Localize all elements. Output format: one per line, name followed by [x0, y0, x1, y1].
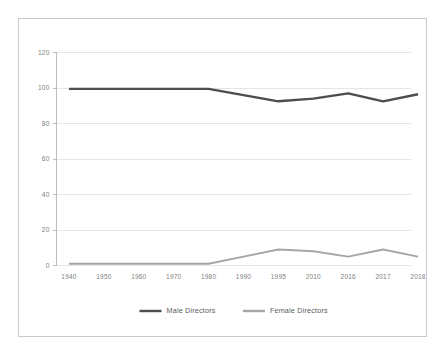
y-tick-label: 100	[38, 84, 50, 91]
x-tick-label: 1980	[201, 273, 216, 280]
y-tick-labels-group: 020406080100120	[38, 49, 50, 269]
x-tick-label: 2016	[341, 273, 356, 280]
series-line-male-directors	[69, 89, 418, 101]
x-tick-label: 1960	[131, 273, 146, 280]
legend-label: Male Directors	[167, 306, 216, 315]
gridlines-group	[57, 53, 411, 266]
x-tick-label: 1950	[96, 273, 111, 280]
x-tick-label: 1940	[61, 273, 76, 280]
x-tick-labels-group: 1940195019601970198019901995201020162017…	[61, 273, 425, 280]
series-line-female-directors	[69, 250, 418, 264]
y-tick-label: 40	[42, 191, 50, 198]
chart-legend: Male DirectorsFemale Directors	[140, 306, 329, 315]
x-tick-label: 1970	[166, 273, 181, 280]
y-axis-group	[53, 53, 57, 266]
y-tick-label: 20	[42, 226, 50, 233]
y-tick-label: 120	[38, 49, 50, 56]
x-tick-label: 1995	[271, 273, 286, 280]
x-tick-label: 1990	[236, 273, 251, 280]
data-series-group	[69, 89, 418, 264]
y-tick-label: 60	[42, 155, 50, 162]
line-chart-plot: 020406080100120 194019501960197019801990…	[0, 0, 445, 356]
chart-figure: 020406080100120 194019501960197019801990…	[0, 0, 445, 356]
x-tick-label: 2017	[375, 273, 390, 280]
x-tick-label: 2010	[306, 273, 321, 280]
legend-label: Female Directors	[270, 306, 328, 315]
x-tick-label: 2018	[410, 273, 425, 280]
y-tick-label: 0	[46, 262, 50, 269]
y-tick-label: 80	[42, 120, 50, 127]
